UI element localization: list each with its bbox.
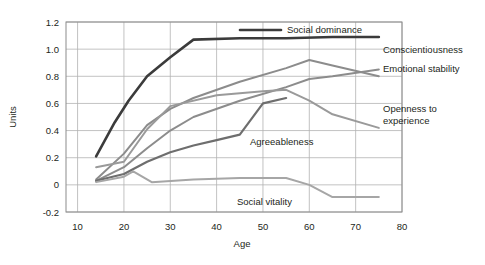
- x-tick-60: 60: [304, 221, 315, 232]
- y-tick-0.2: 0.2: [46, 152, 59, 163]
- chart-container: 1020304050607080 -0.200.20.40.60.81.01.2…: [0, 0, 485, 265]
- y-tick-0.8: 0.8: [46, 71, 59, 82]
- y-tick--0.2: -0.2: [43, 207, 59, 218]
- annotation-emotional-stability: Emotional stability: [383, 63, 460, 74]
- x-axis-title: Age: [234, 238, 251, 249]
- annotation-conscientiousness: Conscientiousness: [383, 44, 463, 55]
- x-tick-70: 70: [350, 221, 361, 232]
- x-tick-40: 40: [211, 221, 222, 232]
- annotation-social-vitality: Social vitality: [237, 196, 292, 207]
- annotation-openness-to-experience: Openness toexperience: [383, 103, 437, 126]
- annotation-social-dominance: Social dominance: [287, 24, 362, 35]
- y-tick-0.4: 0.4: [46, 125, 59, 136]
- x-tick-20: 20: [119, 221, 130, 232]
- annotation-agreeableness: Agreeableness: [250, 136, 314, 147]
- line-chart: 1020304050607080 -0.200.20.40.60.81.01.2…: [0, 0, 485, 265]
- y-axis-title: Units: [7, 106, 18, 128]
- x-tick-80: 80: [397, 221, 408, 232]
- x-tick-30: 30: [165, 221, 176, 232]
- x-tick-10: 10: [72, 221, 83, 232]
- y-tick-1.2: 1.2: [46, 17, 59, 28]
- y-tick-0.6: 0.6: [46, 98, 59, 109]
- x-tick-50: 50: [258, 221, 269, 232]
- y-tick-1.0: 1.0: [46, 44, 59, 55]
- y-tick-0: 0: [54, 179, 59, 190]
